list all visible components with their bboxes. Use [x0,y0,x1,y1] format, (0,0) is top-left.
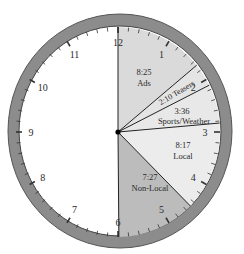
sports-value-label: 3:36 [174,106,189,116]
hour-label-11: 11 [70,49,80,60]
hour-label-9: 9 [29,127,34,138]
hour-label-10: 10 [38,82,48,93]
hour-label-8: 8 [40,172,45,183]
local-value-label: 8:17 [175,140,190,150]
local-name-label: Local [173,151,193,161]
ads-name-label: Ads [137,78,151,88]
nonlocal-value-label: 7:27 [142,172,157,182]
ads-value-label: 8:25 [136,67,151,77]
hour-label-1: 1 [159,49,164,60]
sports-name-label: Sports/Weather [158,116,210,126]
hour-label-7: 7 [72,204,77,215]
hour-label-6: 6 [116,217,121,228]
hour-label-4: 4 [191,172,196,183]
center-dot [115,129,120,134]
clock-pie-chart: 121234567891011 8:25 Ads 2:10 Teasers 3:… [0,0,244,254]
nonlocal-name-label: Non-Local [132,183,169,193]
hour-label-5: 5 [159,204,164,215]
hour-label-3: 3 [203,127,208,138]
